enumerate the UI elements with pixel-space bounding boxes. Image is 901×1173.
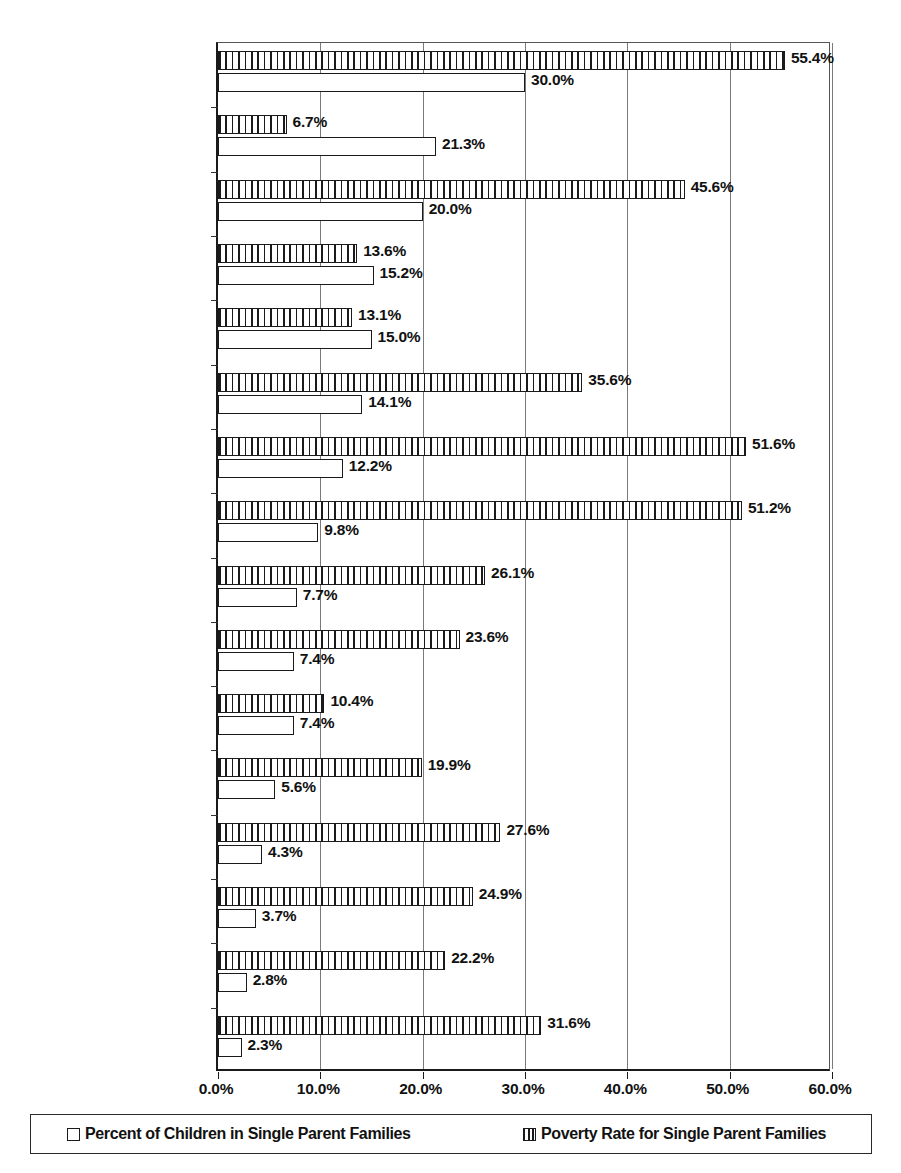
y-axis-tick <box>211 750 218 751</box>
x-axis-tick-label: 10.0% <box>297 1080 340 1098</box>
bar-children-share <box>218 395 362 414</box>
legend-entry-poverty: Poverty Rate for Single Parent Families <box>523 1125 826 1143</box>
bar-children-share <box>218 1038 242 1057</box>
chart-row: France26.1%7.7% <box>218 558 829 622</box>
bar-poverty-rate <box>218 244 357 263</box>
bar-poverty-rate <box>218 501 742 520</box>
bar-value-poverty-rate: 19.9% <box>428 756 471 774</box>
chart-row: Denmark13.6%15.2% <box>218 236 829 300</box>
bar-value-poverty-rate: 13.1% <box>358 306 401 324</box>
bar-value-poverty-rate: 31.6% <box>547 1014 590 1032</box>
chart-row: Mexico27.6%4.3% <box>218 815 829 879</box>
chart-legend: Percent of Children in Single Parent Fam… <box>30 1114 872 1154</box>
bar-value-poverty-rate: 27.6% <box>506 821 549 839</box>
bar-value-poverty-rate: 26.1% <box>491 564 534 582</box>
bar-children-share <box>218 523 318 542</box>
y-axis-tick <box>211 236 218 237</box>
bar-value-poverty-rate: 51.6% <box>752 435 795 453</box>
bar-children-share <box>218 459 343 478</box>
bar-value-poverty-rate: 35.6% <box>588 371 631 389</box>
bar-value-children-share: 3.7% <box>262 907 297 925</box>
chart-row: Poland19.9%5.6% <box>218 750 829 814</box>
x-axis-tick <box>218 1072 219 1079</box>
bar-value-poverty-rate: 6.7% <box>293 113 328 131</box>
x-axis-tick-label: 0.0% <box>199 1080 234 1098</box>
bar-poverty-rate <box>218 951 445 970</box>
bar-children-share <box>218 330 372 349</box>
bar-value-children-share: 2.3% <box>248 1036 283 1054</box>
y-axis-tick <box>211 1008 218 1009</box>
bar-value-children-share: 20.0% <box>429 200 472 218</box>
x-axis-tick-label: 30.0% <box>502 1080 545 1098</box>
chart-row: Hungary10.4%7.4% <box>218 686 829 750</box>
y-axis-tick <box>211 558 218 559</box>
bar-children-share <box>218 202 423 221</box>
bar-value-children-share: 9.8% <box>324 521 359 539</box>
x-axis-tick-label: 20.0% <box>399 1080 442 1098</box>
bar-poverty-rate <box>218 115 287 134</box>
y-axis-tick <box>211 300 218 301</box>
bar-poverty-rate <box>218 308 352 327</box>
chart-row: Greece24.9%3.7% <box>218 879 829 943</box>
bar-value-children-share: 7.7% <box>303 586 338 604</box>
bar-value-children-share: 21.3% <box>442 135 485 153</box>
x-axis-tick <box>730 1072 731 1079</box>
bar-value-poverty-rate: 13.6% <box>363 242 406 260</box>
x-axis-tick-label: 50.0% <box>706 1080 749 1098</box>
bar-value-poverty-rate: 22.2% <box>451 949 494 967</box>
bar-poverty-rate <box>218 694 324 713</box>
chart-row: Australia35.6%14.1% <box>218 365 829 429</box>
bar-children-share <box>218 780 275 799</box>
bar-children-share <box>218 845 262 864</box>
chart-row: Spain31.6%2.3% <box>218 1008 829 1072</box>
y-axis-tick <box>211 943 218 944</box>
chart-row: United Kingdom45.6%20.0% <box>218 172 829 236</box>
legend-swatch-plain-icon <box>67 1128 80 1141</box>
bar-children-share <box>218 137 436 156</box>
chart-row: Italy22.2%2.8% <box>218 943 829 1007</box>
bar-children-share <box>218 973 247 992</box>
x-axis-tick <box>320 1072 321 1079</box>
x-axis-tick <box>525 1072 526 1079</box>
bar-value-children-share: 30.0% <box>531 71 574 89</box>
y-axis-tick <box>211 172 218 173</box>
y-axis-tick <box>211 493 218 494</box>
bar-value-poverty-rate: 23.6% <box>466 628 509 646</box>
x-axis-tick-label: 60.0% <box>809 1080 852 1098</box>
bar-value-children-share: 12.2% <box>349 457 392 475</box>
chart-row: United States55.4%30.0% <box>218 43 829 107</box>
legend-swatch-hatched-icon <box>523 1128 536 1141</box>
bar-children-share <box>218 652 294 671</box>
bar-children-share <box>218 73 525 92</box>
bar-value-children-share: 14.1% <box>368 393 411 411</box>
bar-poverty-rate <box>218 823 500 842</box>
y-axis-tick <box>211 107 218 108</box>
gridline <box>832 43 833 1069</box>
bar-value-poverty-rate: 55.4% <box>791 49 834 67</box>
legend-entry-children: Percent of Children in Single Parent Fam… <box>67 1125 411 1143</box>
bar-value-poverty-rate: 24.9% <box>479 885 522 903</box>
bar-poverty-rate <box>218 437 746 456</box>
y-axis-tick <box>211 622 218 623</box>
bar-children-share <box>218 588 297 607</box>
bar-value-children-share: 4.3% <box>268 843 303 861</box>
bar-value-children-share: 7.4% <box>300 714 335 732</box>
x-axis-tick <box>832 1072 833 1079</box>
y-axis-tick <box>211 429 218 430</box>
bar-poverty-rate <box>218 51 785 70</box>
bar-poverty-rate <box>218 566 485 585</box>
bar-poverty-rate <box>218 1016 541 1035</box>
legend-label-children: Percent of Children in Single Parent Fam… <box>85 1125 411 1143</box>
bar-poverty-rate <box>218 887 473 906</box>
bar-value-children-share: 15.0% <box>378 328 421 346</box>
bar-children-share <box>218 266 374 285</box>
chart-row: Germany51.2%9.8% <box>218 493 829 557</box>
y-axis-tick <box>211 365 218 366</box>
x-axis-tick <box>627 1072 628 1079</box>
x-axis-tick <box>423 1072 424 1079</box>
chart-root: United States55.4%30.0%Sweden6.7%21.3%Un… <box>0 0 901 1173</box>
bar-poverty-rate <box>218 630 460 649</box>
chart-row: Netherlands23.6%7.4% <box>218 622 829 686</box>
y-axis-tick <box>211 686 218 687</box>
bar-value-poverty-rate: 45.6% <box>691 178 734 196</box>
